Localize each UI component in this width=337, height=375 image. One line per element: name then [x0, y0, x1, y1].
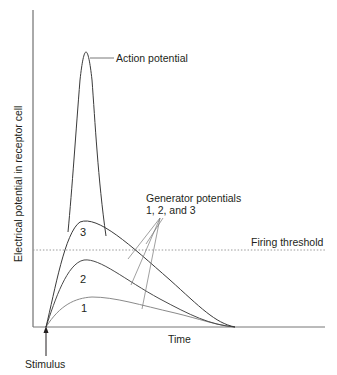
y-axis-label: Electrical potential in receptor cell — [12, 106, 24, 262]
generator-leader-3 — [128, 218, 160, 259]
generator-leader-2 — [131, 218, 160, 285]
action-potential-curve — [68, 52, 106, 236]
generator-potential-3-curve — [46, 221, 235, 327]
x-axis-label: Time — [168, 333, 191, 345]
stimulus-label: Stimulus — [25, 358, 65, 370]
receptor-potential-diagram: Action potential Generator potentials 1,… — [0, 0, 337, 375]
generator-potentials-label-line2: 1, 2, and 3 — [146, 204, 196, 216]
curve-label-2: 2 — [80, 273, 86, 285]
action-potential-label: Action potential — [116, 52, 188, 64]
generator-leader-4 — [146, 218, 163, 244]
generator-leader-1 — [142, 218, 160, 309]
generator-potentials-label-line1: Generator potentials — [146, 192, 241, 204]
curve-label-1: 1 — [81, 302, 87, 314]
generator-potential-2-curve — [46, 260, 235, 327]
curve-label-3: 3 — [80, 226, 86, 238]
firing-threshold-label: Firing threshold — [251, 236, 324, 248]
